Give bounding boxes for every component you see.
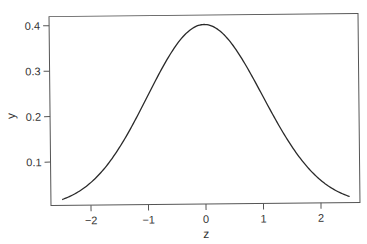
x-tick-label: 1 bbox=[261, 212, 267, 224]
y-tick-label: 0.4 bbox=[25, 20, 40, 32]
normal-density-chart: −2−1012 0.10.20.30.4 z y bbox=[0, 0, 367, 244]
x-tick-label: 2 bbox=[318, 212, 324, 224]
plot-area: −2−1012 0.10.20.30.4 z y bbox=[3, 13, 360, 243]
y-axis-title: y bbox=[4, 113, 18, 119]
y-tick-label: 0.1 bbox=[26, 156, 41, 168]
x-tick-label: −1 bbox=[142, 214, 155, 226]
x-axis-title: z bbox=[203, 227, 209, 241]
y-tick-label: 0.2 bbox=[26, 111, 41, 123]
x-tick-label: 0 bbox=[203, 213, 209, 225]
y-tick-label: 0.3 bbox=[25, 65, 40, 77]
density-curve bbox=[60, 23, 349, 200]
x-tick-label: −2 bbox=[85, 214, 98, 226]
x-axis: −2−1012 bbox=[85, 203, 325, 227]
plot-frame bbox=[49, 13, 360, 205]
y-axis: 0.10.20.30.4 bbox=[25, 20, 51, 169]
